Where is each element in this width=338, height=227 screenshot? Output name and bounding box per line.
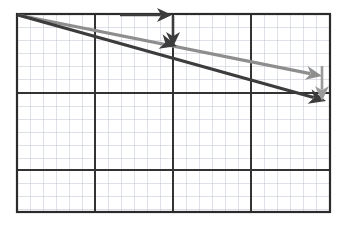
figure-canvas xyxy=(0,0,338,227)
annotation-arrows xyxy=(120,8,329,101)
grid-vector-figure xyxy=(0,0,338,227)
dark-vector-arrow-shaft xyxy=(18,15,314,98)
